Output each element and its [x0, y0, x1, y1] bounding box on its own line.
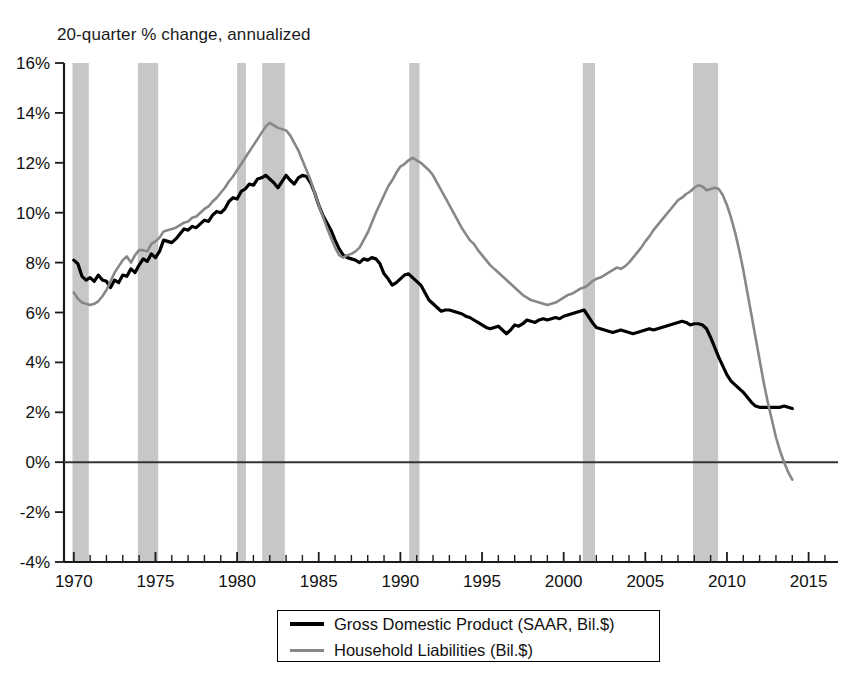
x-tick-label: 1990	[381, 572, 419, 591]
x-tick-label: 2015	[790, 572, 828, 591]
x-tick-label: 1985	[300, 572, 338, 591]
x-tick-labels-group: 1970197519801985199019952000200520102015	[55, 572, 828, 591]
legend-label-gdp: Gross Domestic Product (SAAR, Bil.$)	[334, 616, 615, 633]
y-tick-labels-group: -4%-2%0%2%4%6%8%10%12%14%16%	[16, 54, 50, 572]
y-tick-label: 8%	[25, 254, 50, 273]
y-tick-label: -2%	[20, 503, 50, 522]
x-tick-label: 1995	[463, 572, 501, 591]
y-tick-label: 6%	[25, 304, 50, 323]
y-tick-label: 0%	[25, 453, 50, 472]
y-tick-label: 4%	[25, 353, 50, 372]
recession-band-6	[693, 63, 718, 562]
chart-legend: Gross Domestic Product (SAAR, Bil.$) Hou…	[277, 610, 660, 662]
y-tick-label: 10%	[16, 204, 50, 223]
y-tick-label: -4%	[20, 553, 50, 572]
recession-band-3	[262, 63, 285, 562]
axes-group	[64, 63, 838, 562]
x-tick-label: 2010	[708, 572, 746, 591]
recession-band-2	[237, 63, 246, 562]
data-series-group	[74, 123, 792, 480]
x-tick-label: 1975	[137, 572, 175, 591]
legend-swatch-gdp-icon	[290, 622, 324, 626]
legend-item-gdp: Gross Domestic Product (SAAR, Bil.$)	[278, 611, 659, 637]
chart-page: 20-quarter % change, annualized -4%-2%0%…	[0, 0, 862, 680]
y-tick-label: 16%	[16, 54, 50, 73]
legend-label-household-liabilities: Household Liabilities (Bil.$)	[334, 642, 533, 659]
chart-plot-area: -4%-2%0%2%4%6%8%10%12%14%16% 19701975198…	[0, 0, 862, 680]
x-tick-label: 2000	[545, 572, 583, 591]
recession-band-4	[409, 63, 419, 562]
recession-band-0	[72, 63, 88, 562]
x-tick-label: 1970	[55, 572, 93, 591]
y-ticks-group	[55, 63, 64, 562]
recession-bands-group	[72, 63, 718, 562]
x-tick-label: 2005	[626, 572, 664, 591]
legend-swatch-household-liabilities-icon	[290, 649, 324, 652]
y-tick-label: 14%	[16, 104, 50, 123]
y-tick-label: 12%	[16, 154, 50, 173]
recession-band-1	[138, 63, 158, 562]
y-tick-label: 2%	[25, 403, 50, 422]
series-line-gdp	[74, 175, 792, 408]
legend-item-household-liabilities: Household Liabilities (Bil.$)	[278, 637, 659, 663]
x-tick-label: 1980	[218, 572, 256, 591]
series-line-household-liabilities	[74, 123, 792, 480]
